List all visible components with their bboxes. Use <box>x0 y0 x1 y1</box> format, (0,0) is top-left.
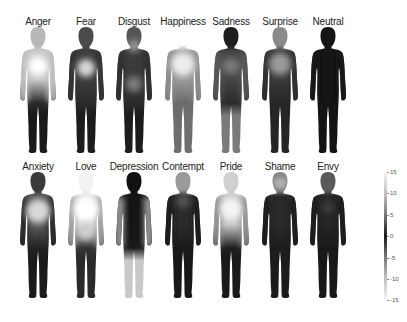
body-map-surprise: Surprise <box>258 16 302 166</box>
body-map-depression: Depression <box>112 161 156 311</box>
body-silhouette-icon <box>64 26 108 154</box>
body-map-contempt: Contempt <box>161 161 205 311</box>
body-map-anxiety: Anxiety <box>16 161 60 311</box>
colorbar-tick: 0 <box>390 233 393 239</box>
body-map-envy: Envy <box>306 161 350 311</box>
body-silhouette-icon <box>209 26 253 154</box>
body-silhouette-icon <box>258 171 302 299</box>
body-silhouette-icon <box>209 171 253 299</box>
body-silhouette-icon <box>161 26 205 154</box>
body-map-love: Love <box>64 161 108 311</box>
body-silhouette-icon <box>112 26 156 154</box>
body-map-shame: Shame <box>258 161 302 311</box>
body-silhouette-icon <box>161 171 205 299</box>
body-silhouette-icon <box>64 171 108 299</box>
body-map-happiness: Happiness <box>161 16 205 166</box>
body-silhouette-icon <box>258 26 302 154</box>
body-silhouette-icon <box>16 171 60 299</box>
colorbar-tick: 5 <box>390 212 393 218</box>
colorbar-tick: -10 <box>390 276 399 282</box>
body-map-fear: Fear <box>64 16 108 166</box>
body-silhouette-icon <box>306 171 350 299</box>
body-map-neutral: Neutral <box>306 16 350 166</box>
body-silhouette-icon <box>112 171 156 299</box>
body-map-pride: Pride <box>209 161 253 311</box>
colorbar-tick: -15 <box>390 297 399 303</box>
body-silhouette-icon <box>306 26 350 154</box>
colorbar-tick: -5 <box>390 255 395 261</box>
colorbar-tick: 15 <box>390 169 397 175</box>
body-map-disgust: Disgust <box>112 16 156 166</box>
body-map-sadness: Sadness <box>209 16 253 166</box>
colorbar-tick: 10 <box>390 190 397 196</box>
body-silhouette-icon <box>16 26 60 154</box>
body-map-anger: Anger <box>16 16 60 166</box>
